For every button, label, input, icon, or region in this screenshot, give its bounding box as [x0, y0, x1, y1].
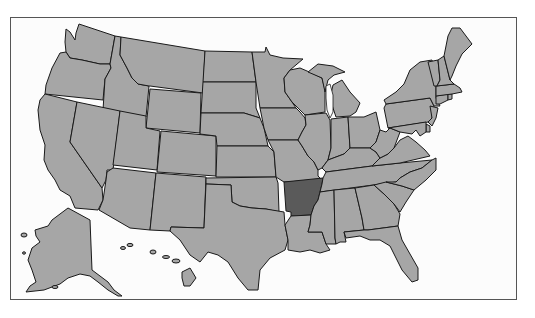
state-KS[interactable] [216, 146, 276, 177]
state-CO[interactable] [157, 131, 216, 176]
state-AZ[interactable] [99, 168, 156, 230]
alaska-island [52, 286, 58, 289]
state-ND[interactable] [203, 51, 256, 82]
alaska-island [23, 252, 26, 254]
state-FL[interactable] [344, 226, 418, 282]
state-AK[interactable] [26, 208, 122, 296]
state-IA[interactable] [260, 108, 306, 140]
state-ME[interactable] [444, 28, 472, 80]
state-WY[interactable] [146, 89, 201, 133]
us-map [0, 0, 535, 318]
state-NM[interactable] [150, 173, 206, 231]
state-DE[interactable] [426, 124, 430, 132]
alaska-island [21, 233, 27, 237]
state-HI[interactable] [121, 243, 197, 286]
